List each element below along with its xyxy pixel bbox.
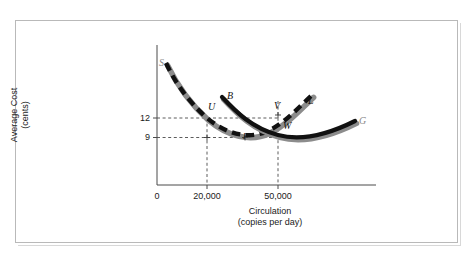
x-tick-label-0: 0 (148, 191, 166, 201)
reference-lines (157, 101, 278, 185)
annotation-label-s: S (159, 57, 164, 68)
y-tick-label-9: 9 (128, 132, 150, 142)
annotation-label-w: W (283, 120, 291, 131)
annotation-label-u: U (208, 101, 215, 112)
x-tick-label-50000: 50,000 (253, 191, 303, 201)
axes (157, 45, 376, 185)
y-axis-title: Average Cost (cents) (9, 69, 31, 161)
annotation-label-l: L (308, 95, 314, 106)
x-tick-label-20000: 20,000 (182, 191, 232, 201)
annotation-label-g: G (359, 115, 366, 126)
annotation-label-b: B (227, 90, 233, 101)
annotation-label-v: V (274, 100, 280, 111)
chart-screenshot: Average Cost (cents) Circulation (copies… (0, 0, 476, 260)
annotation-label-f: F (243, 132, 248, 141)
y-tick-label-12: 12 (128, 113, 150, 123)
x-axis-title: Circulation (copies per day) (200, 206, 340, 228)
